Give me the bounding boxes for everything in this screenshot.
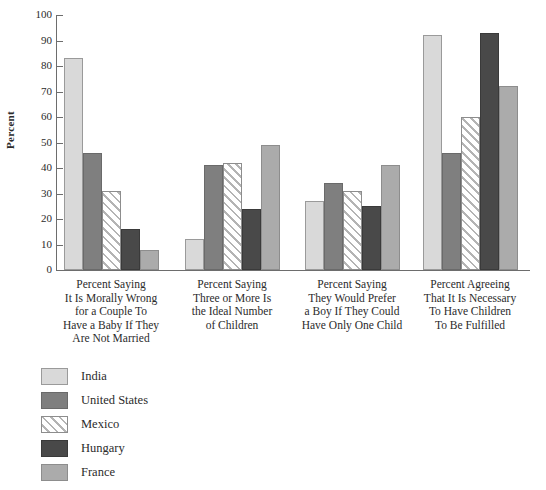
- category-label: Percent AgreeingThat It Is NecessaryTo H…: [408, 278, 533, 332]
- y-axis-label: Percent: [4, 90, 16, 170]
- bar: [499, 86, 518, 270]
- bar: [480, 33, 499, 270]
- bar: [121, 229, 140, 270]
- legend-swatch: [41, 368, 68, 385]
- bar: [324, 183, 343, 270]
- y-tick-label: 100: [18, 8, 52, 21]
- bar: [423, 35, 442, 270]
- category-label: Percent SayingIt Is Morally Wrongfor a C…: [49, 278, 174, 346]
- bar: [140, 250, 159, 270]
- bar: [362, 206, 381, 270]
- legend-label: Hungary: [81, 439, 125, 457]
- category-label-line: It Is Morally Wrong: [49, 292, 174, 306]
- category-label-line: They Would Prefer: [290, 292, 415, 306]
- y-tick-label: 30: [18, 187, 52, 200]
- bar: [83, 153, 102, 270]
- y-tick-label: 0: [18, 263, 52, 276]
- category-label-line: a Boy If They Could: [290, 305, 415, 319]
- bar: [64, 58, 83, 270]
- category-label-line: To Have Children: [408, 305, 533, 319]
- category-label-line: the Ideal Number: [172, 305, 292, 319]
- legend-label: India: [81, 367, 107, 385]
- legend-label: United States: [81, 391, 148, 409]
- y-tick-mark: [57, 270, 63, 271]
- x-axis-line: [56, 270, 530, 271]
- y-tick-label: 40: [18, 161, 52, 174]
- y-tick-label: 90: [18, 34, 52, 47]
- y-tick-label: 20: [18, 212, 52, 225]
- category-label-line: Are Not Married: [49, 332, 174, 346]
- category-label-line: of Children: [172, 319, 292, 333]
- legend-label: France: [81, 463, 115, 481]
- category-label-line: Percent Saying: [49, 278, 174, 292]
- bar: [261, 145, 280, 270]
- y-tick-label: 60: [18, 110, 52, 123]
- bar-group: [305, 15, 400, 270]
- legend-swatch: [41, 392, 68, 409]
- plot-area: [56, 15, 530, 270]
- legend-swatch: [41, 416, 68, 433]
- category-label-line: Have Only One Child: [290, 319, 415, 333]
- bar: [102, 191, 121, 270]
- bar-group: [185, 15, 280, 270]
- bar: [185, 239, 204, 270]
- bar: [305, 201, 324, 270]
- category-label-line: That It Is Necessary: [408, 292, 533, 306]
- category-label-line: Percent Agreeing: [408, 278, 533, 292]
- category-label-line: Three or More Is: [172, 292, 292, 306]
- category-label-line: Have a Baby If They: [49, 319, 174, 333]
- category-label: Percent SayingThree or More Isthe Ideal …: [172, 278, 292, 332]
- legend-label: Mexico: [81, 415, 119, 433]
- y-tick-label: 50: [18, 136, 52, 149]
- bar: [442, 153, 461, 270]
- category-label-line: Percent Saying: [290, 278, 415, 292]
- bar: [381, 165, 400, 270]
- y-tick-label: 70: [18, 85, 52, 98]
- category-label-line: To Be Fulfilled: [408, 319, 533, 333]
- category-label-line: Percent Saying: [172, 278, 292, 292]
- bar-group: [64, 15, 159, 270]
- bar-chart: Percent 1009080706050403020100 Percent S…: [0, 0, 546, 490]
- legend-swatch: [41, 440, 68, 457]
- category-label: Percent SayingThey Would Prefera Boy If …: [290, 278, 415, 332]
- legend-swatch: [41, 464, 68, 481]
- category-label-line: for a Couple To: [49, 305, 174, 319]
- bar: [242, 209, 261, 270]
- bar: [343, 191, 362, 270]
- bar: [204, 165, 223, 270]
- bar: [461, 117, 480, 270]
- bar: [223, 163, 242, 270]
- y-tick-label: 10: [18, 238, 52, 251]
- y-tick-label: 80: [18, 59, 52, 72]
- bar-group: [423, 15, 518, 270]
